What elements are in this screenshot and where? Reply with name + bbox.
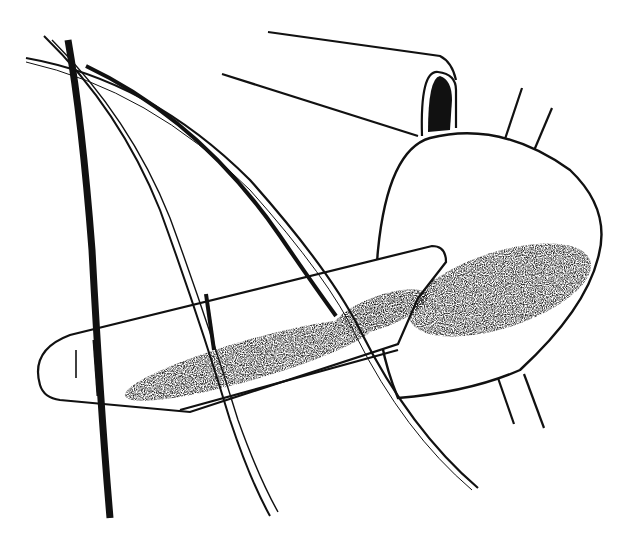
nacelle-intake [428,76,452,132]
blade-thick [68,40,110,518]
nacelle [222,32,456,136]
propeller-illustration [0,0,632,548]
